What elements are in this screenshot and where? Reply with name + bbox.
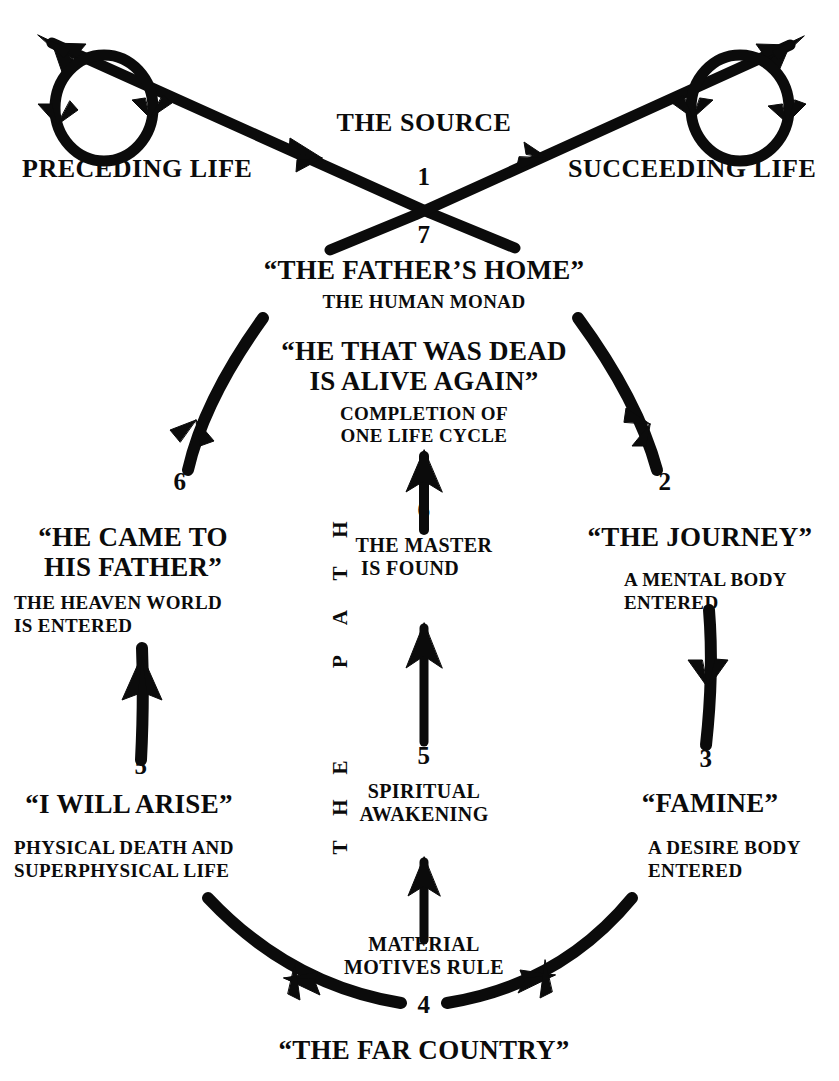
preceding-path-mid-arrowhead: [289, 138, 322, 172]
far-country-title: “THE FAR COUNTRY”: [278, 1036, 569, 1065]
master-found-line-1: THE MASTER: [356, 535, 493, 557]
mental-body-line-1: A MENTAL BODY: [624, 570, 787, 591]
preceding-life-arrowhead: [38, 35, 86, 72]
material-motives-line-1: MATERIAL: [368, 934, 480, 956]
completion-note-line-2: ONE LIFE CYCLE: [341, 426, 508, 447]
completion-note-line-1: COMPLETION OF: [340, 404, 508, 425]
material-motives-line-2: MOTIVES RULE: [344, 957, 504, 979]
preceding-life-stroke: [52, 43, 515, 248]
succeeding-life-stroke: [330, 45, 790, 250]
desire-body-line-1: A DESIRE BODY: [648, 838, 801, 859]
arrow-journey-to-famine: [688, 610, 728, 745]
path-letter-a: A: [329, 602, 352, 632]
alive-again-line-1: “HE THAT WAS DEAD: [281, 337, 566, 366]
path-letter-t2: T: [329, 558, 352, 588]
path-letter-p: P: [329, 646, 352, 676]
arrow-material-to-awakening: [408, 857, 440, 940]
source-label: THE SOURCE: [337, 109, 512, 137]
diagram-canvas: THE SOURCE PRECEDING LIFE SUCCEEDING LIF…: [0, 0, 839, 1081]
preceding-life-loop: [38, 55, 172, 161]
succeeding-life-arrowhead: [756, 36, 804, 73]
arrow-arise-to-heaven: [122, 648, 162, 760]
came-to-father-line-1: “HE CAME TO: [38, 523, 228, 552]
succeeding-life-loop: [672, 55, 806, 161]
step-number-7: 7: [418, 221, 431, 248]
came-to-father-line-2: HIS FATHER”: [44, 553, 222, 582]
arrow-awakening-to-master: [406, 623, 442, 742]
physical-death-line-1: PHYSICAL DEATH AND: [14, 838, 234, 859]
path-letter-h2: H: [329, 514, 352, 544]
physical-death-line-2: SUPERPHYSICAL LIFE: [14, 861, 229, 882]
step-number-5-center: 5: [418, 742, 431, 769]
path-letter-e: E: [329, 752, 352, 782]
step-number-5-left: 5: [135, 752, 148, 779]
preceding-life-label: PRECEDING LIFE: [22, 155, 252, 183]
desire-body-line-2: ENTERED: [648, 861, 743, 882]
step-number-6-center: 6: [418, 496, 431, 523]
famine-title: “FAMINE”: [642, 789, 779, 818]
spiritual-awakening-line-2: AWAKENING: [359, 804, 488, 826]
path-letter-h1: H: [329, 792, 352, 822]
step-number-1: 1: [418, 163, 431, 190]
master-found-line-2: IS FOUND: [361, 558, 459, 580]
the-journey-title: “THE JOURNEY”: [588, 523, 813, 552]
heaven-world-line-1: THE HEAVEN WORLD: [14, 593, 222, 614]
alive-again-line-2: IS ALIVE AGAIN”: [309, 367, 538, 396]
step-number-2: 2: [659, 468, 672, 495]
succeeding-path-mid-arrowhead: [516, 142, 548, 170]
arrow-fathers-home-to-journey: [578, 318, 657, 470]
spiritual-awakening-line-1: SPIRITUAL: [368, 781, 481, 803]
step-number-4: 4: [418, 991, 431, 1018]
succeeding-life-label: SUCCEEDING LIFE: [568, 155, 816, 183]
step-number-6-left: 6: [174, 468, 187, 495]
heaven-world-line-2: IS ENTERED: [14, 616, 132, 637]
fathers-home-title: “THE FATHER’S HOME”: [264, 256, 585, 285]
arrow-6-to-fathers-home: [170, 318, 263, 470]
step-number-3: 3: [700, 745, 713, 772]
path-letter-t1: T: [329, 832, 352, 862]
i-will-arise-title: “I WILL ARISE”: [25, 790, 232, 819]
mental-body-line-2: ENTERED: [624, 593, 719, 614]
human-monad-subtitle: THE HUMAN MONAD: [322, 292, 525, 313]
